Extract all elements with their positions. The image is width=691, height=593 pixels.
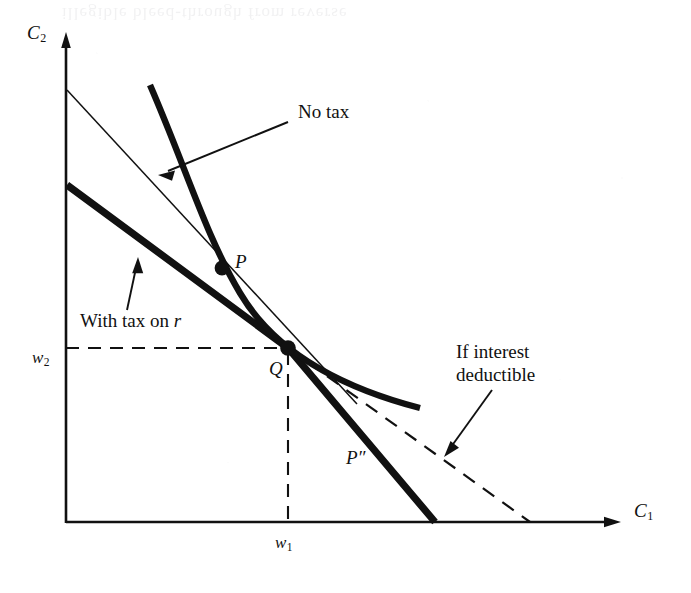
indifference-curve	[150, 85, 420, 408]
point-P-double-prime-label: P″	[346, 447, 366, 468]
no-tax-leader-line	[168, 122, 288, 171]
deductible-leader	[444, 390, 492, 457]
no-tax-leader-arrowhead	[158, 171, 175, 181]
annotation-if-interest-line1: If interest	[456, 341, 529, 362]
point-Q-label: Q	[269, 358, 283, 379]
annotation-with-tax-prefix: With tax on	[80, 310, 174, 331]
economics-figure	[0, 0, 691, 593]
annotation-no-tax: No tax	[298, 101, 349, 122]
w2-tick-label: w2	[32, 348, 50, 369]
deductible-leader-line	[451, 390, 492, 447]
point-P-label: P	[235, 251, 247, 272]
y-axis-label: C2	[27, 22, 46, 45]
annotation-with-tax-on-r: With tax on r	[80, 310, 181, 331]
x-axis-arrowhead	[604, 517, 621, 527]
with-tax-leader	[127, 257, 143, 310]
deductible-leader-arrowhead	[444, 441, 459, 457]
annotation-if-interest-line2: deductible	[456, 364, 535, 385]
no-tax-budget-line	[67, 90, 357, 404]
with-tax-leader-line	[127, 268, 136, 310]
figure-canvas	[0, 0, 691, 593]
annotation-with-tax-variable: r	[174, 310, 181, 331]
x-axis-label: C1	[634, 500, 653, 523]
with-tax-budget-line	[67, 185, 435, 522]
y-axis-arrowhead	[61, 32, 71, 48]
with-tax-leader-arrowhead	[132, 257, 143, 273]
w1-tick-label: w1	[275, 533, 293, 554]
point-Q-marker	[280, 340, 296, 356]
endowment-guide-lines	[66, 348, 289, 521]
point-P-marker	[215, 261, 230, 276]
